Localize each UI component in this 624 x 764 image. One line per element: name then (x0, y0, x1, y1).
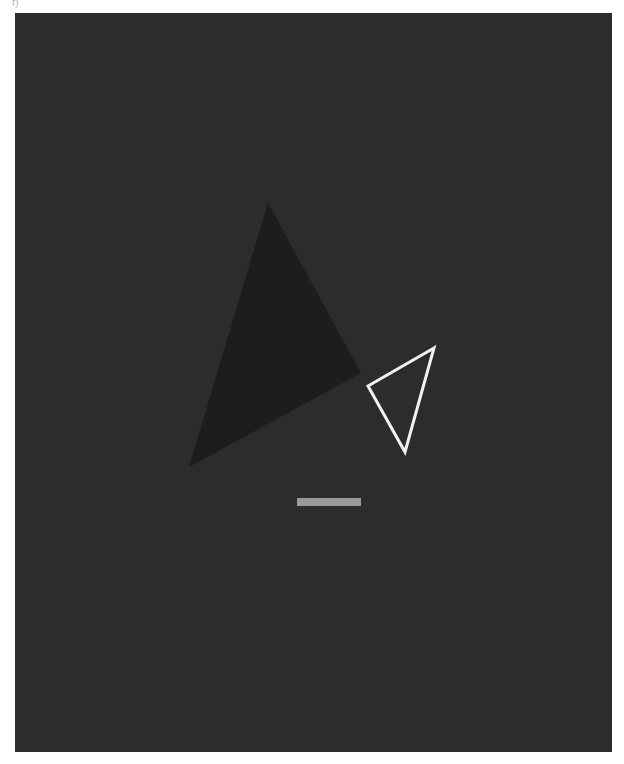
horizontal-gray-bar (297, 498, 361, 506)
outlined-white-triangle (368, 348, 434, 452)
filled-dark-triangle (189, 203, 361, 467)
shapes-canvas (15, 13, 612, 752)
figure-label: f) (12, 0, 19, 8)
stimulus-panel (15, 13, 612, 752)
